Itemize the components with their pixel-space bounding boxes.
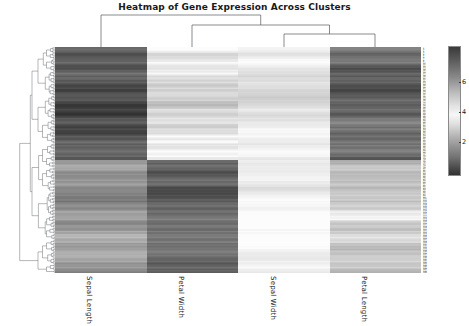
dendro-merge-root — [101, 15, 261, 47]
column-label-sepal-width: Sepal Width — [269, 276, 277, 320]
column-dendrogram-svg — [55, 12, 421, 47]
column-label-petal-width: Petal Width — [177, 276, 185, 318]
colorbar-gradient — [449, 47, 460, 175]
colorbar-tick-label-6: 6 — [462, 78, 466, 86]
row-dendrogram-svg — [2, 47, 55, 273]
colorbar-tick-mark — [459, 112, 461, 113]
colorbar-tick-mark — [459, 82, 461, 83]
column-label-sepal-length: Sepal Length — [85, 276, 93, 324]
colorbar-tick-mark — [459, 142, 461, 143]
heatmap-grid — [55, 47, 421, 273]
colorbar-tick-label-4: 4 — [462, 108, 466, 116]
page-title: Heatmap of Gene Expression Across Cluste… — [0, 2, 469, 12]
row-dendrogram — [2, 47, 55, 273]
row-tick-labels: 0123456789101112131415161718192021222324… — [422, 47, 436, 273]
row-dendrogram-paths — [20, 48, 55, 272]
heatmap-figure: Heatmap of Gene Expression Across Cluste… — [0, 0, 469, 326]
row-tick-label: 149 — [423, 271, 427, 273]
dendro-merge-petalwidth-cluster — [192, 25, 330, 47]
heatmap-canvas — [55, 47, 421, 273]
column-dendrogram — [55, 12, 421, 47]
dendro-merge-sepalwidth-petallength — [284, 34, 375, 47]
column-label-petal-length: Petal Length — [360, 276, 368, 322]
colorbar — [448, 46, 461, 176]
colorbar-tick-label-2: 2 — [462, 138, 466, 146]
